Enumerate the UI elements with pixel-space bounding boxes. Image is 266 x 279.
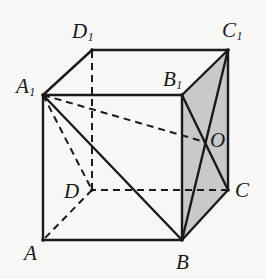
vertex-dot-C1 (226, 48, 230, 52)
vertex-label-D: D (64, 181, 79, 202)
vertex-dot-B (180, 238, 184, 242)
vertex-label-D1: D1 (72, 21, 93, 42)
vertex-label-letter-C: C (235, 178, 249, 202)
vertex-label-A1: A1 (16, 76, 35, 97)
vertex-label-C: C (235, 180, 249, 201)
vertex-label-letter-B1: B (163, 67, 176, 91)
vertex-label-A: A (24, 243, 37, 264)
vertex-dot-A1 (41, 93, 45, 97)
vertex-dot-A (41, 238, 45, 242)
line-A1-D (43, 95, 92, 190)
vertex-label-B1: B1 (163, 69, 182, 90)
line-A1-O (43, 95, 205, 142)
vertex-label-letter-O: O (210, 128, 225, 152)
vertex-label-B: B (176, 252, 189, 273)
cube-figure: ABCDA1B1C1D1O (0, 0, 266, 279)
vertex-label-letter-D1: D (72, 19, 87, 43)
vertex-label-subscript-D1: 1 (88, 30, 94, 44)
vertex-dot-O (203, 140, 206, 143)
vertex-label-C1: C1 (222, 20, 242, 41)
vertex-label-letter-A: A (24, 241, 37, 265)
edge-D1-A1 (43, 50, 92, 95)
vertex-dot-D (90, 188, 94, 192)
vertex-label-subscript-A1: 1 (29, 85, 35, 99)
vertex-label-O: O (210, 130, 225, 151)
vertex-label-letter-A1: A (16, 74, 29, 98)
vertex-label-subscript-C1: 1 (237, 29, 243, 43)
vertex-dot-C (226, 188, 230, 192)
vertex-dot-B1 (180, 93, 184, 97)
vertex-dot-D1 (90, 48, 94, 52)
vertex-label-letter-B: B (176, 250, 189, 274)
vertex-label-letter-D: D (64, 179, 79, 203)
vertex-label-letter-C1: C (222, 18, 236, 42)
vertex-label-subscript-B1: 1 (176, 78, 182, 92)
